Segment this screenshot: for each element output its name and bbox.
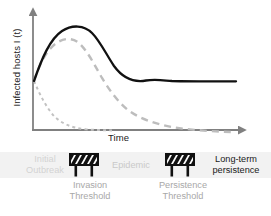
plot-svg [0,0,271,216]
phase-initial-line1: Initial [18,154,72,165]
road-barrier-icon-persistence-threshold [163,150,197,178]
threshold-invasion-line2: Threshold [48,191,132,202]
series-longterm-persistence [34,27,236,82]
phase-label-epidemic: Epidemic [100,160,162,171]
series-epidemic-fadeout [34,39,232,132]
phase-initial-line2: Outbreak [18,165,72,176]
threshold-caption-persistence: Persistence Threshold [138,180,228,202]
series-subthreshold-dieout [34,81,112,130]
threshold-caption-invasion: Invasion Threshold [48,180,132,202]
x-axis-label: Time [108,132,129,143]
epidemic-phases-figure: Infected hosts I (t) Time Initial Outbre… [0,0,271,216]
phase-label-long-term-persistence: Long-term persistence [202,154,270,175]
threshold-persistence-line1: Persistence [138,180,228,191]
threshold-invasion-line1: Invasion [48,180,132,191]
threshold-persistence-line2: Threshold [138,191,228,202]
phase-longterm-line1: Long-term [202,154,270,165]
phase-label-initial-outbreak: Initial Outbreak [18,154,72,175]
road-barrier-icon-invasion-threshold [67,150,101,178]
phase-longterm-line2: persistence [202,165,270,176]
y-axis-label: Infected hosts I (t) [11,8,22,128]
